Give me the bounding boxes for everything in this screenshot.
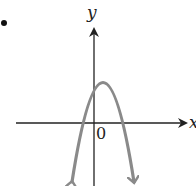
y-axis-label: y — [87, 2, 97, 22]
graph-figure: y x 0 — [0, 0, 196, 186]
graph-canvas — [0, 0, 196, 186]
x-axis-label: x — [189, 112, 196, 132]
origin-label: 0 — [96, 124, 106, 143]
